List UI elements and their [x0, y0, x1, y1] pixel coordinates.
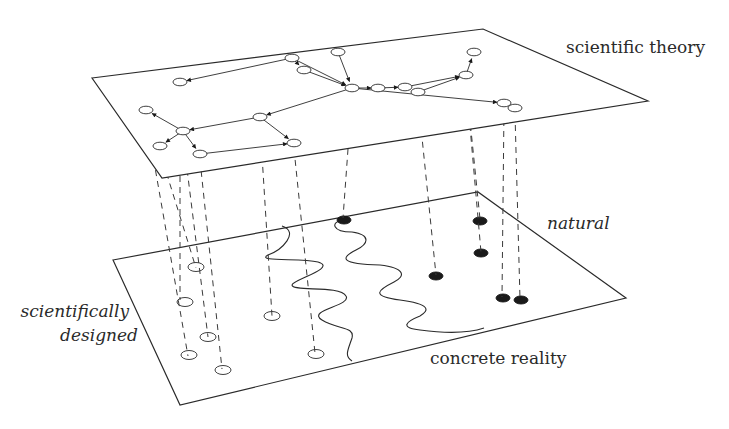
label-natural: natural: [547, 213, 610, 233]
theory-concept-node: [139, 106, 153, 114]
theory-concept-node: [459, 71, 473, 79]
designed-observation-node: [215, 366, 231, 375]
theory-concept-node: [371, 84, 385, 92]
theory-concept-node: [193, 150, 207, 158]
theory-concept-node: [176, 127, 190, 135]
designed-observation-node: [188, 263, 204, 272]
theory-concept-node: [398, 83, 412, 91]
label-designed: designed: [60, 325, 138, 345]
label-scientific-theory: scientific theory: [566, 37, 705, 57]
natural-observation-node: [337, 216, 351, 224]
label-concrete-reality: concrete reality: [430, 348, 567, 368]
designed-observation-node: [308, 350, 324, 359]
theory-concept-node: [331, 48, 345, 56]
theory-concept-node: [411, 88, 425, 96]
scientific-theory-plane: [92, 29, 648, 178]
theory-concept-node: [467, 48, 481, 56]
theory-concept-node: [285, 54, 299, 62]
theory-concept-node: [345, 84, 359, 92]
natural-observation-node: [514, 296, 528, 304]
theory-concept-node: [173, 78, 187, 86]
designed-observation-node: [181, 351, 197, 360]
theory-concept-node: [297, 66, 311, 74]
theory-concept-node: [287, 139, 301, 147]
label-scientifically: scientifically: [21, 301, 130, 321]
theory-concept-node: [253, 113, 267, 121]
theory-concept-node: [508, 104, 522, 112]
theory-reality-diagram: scientific theory natural scientifically…: [0, 0, 729, 429]
theory-concept-node: [153, 142, 167, 150]
natural-observation-node: [496, 294, 510, 302]
